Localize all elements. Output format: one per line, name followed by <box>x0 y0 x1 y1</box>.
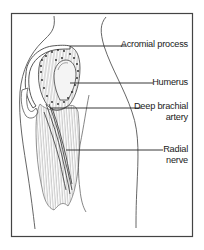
label-radial-nerve: Radial nerve <box>163 144 188 165</box>
label-acromial-process-text: Acromial process <box>121 39 188 50</box>
label-deep-brachial-artery: Deep brachial artery <box>134 101 188 122</box>
anatomy-figure: Acromial process Humerus Deep brachial a… <box>0 0 204 250</box>
label-humerus-text: Humerus <box>152 77 188 88</box>
arm-contour-inner <box>79 95 90 212</box>
label-acromial-process: Acromial process <box>121 39 188 50</box>
label-radial-line2: nerve <box>163 155 188 166</box>
upper-arm-muscle <box>36 104 80 210</box>
arm-illustration <box>0 0 204 250</box>
label-deep-brachial-line1: Deep brachial <box>134 101 188 112</box>
label-radial-line1: Radial <box>163 144 188 155</box>
label-humerus: Humerus <box>152 77 188 88</box>
label-deep-brachial-line2: artery <box>134 112 188 123</box>
